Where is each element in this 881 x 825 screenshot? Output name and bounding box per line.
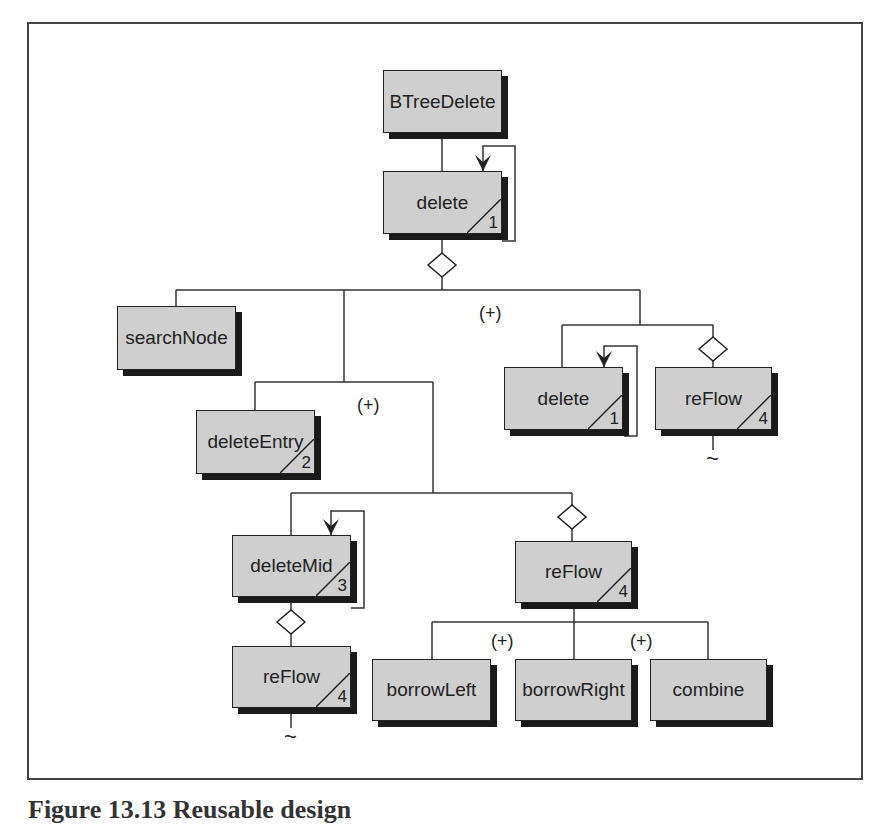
module-box-reflow-mid: reFlow4 [515, 541, 632, 603]
module-label: borrowLeft [387, 679, 477, 701]
module-box-body: deleteEntry2 [196, 410, 315, 474]
module-box-delete-right: delete1 [504, 367, 623, 430]
module-box-deleteentry: deleteEntry2 [196, 410, 315, 474]
module-label: searchNode [125, 327, 227, 349]
continuation-tilde: ~ [706, 446, 719, 472]
module-box-body: reFlow4 [515, 541, 632, 603]
module-box-body: reFlow4 [232, 646, 351, 708]
reference-number: 1 [489, 213, 498, 233]
continuation-tilde: ~ [284, 724, 297, 750]
module-box-reflow-right: reFlow4 [655, 367, 772, 430]
module-box-body: borrowRight [515, 659, 632, 721]
module-box-delete-top: delete1 [383, 171, 502, 234]
module-label: reFlow [263, 666, 320, 688]
reference-corner: 1 [588, 395, 622, 429]
module-label: reFlow [545, 561, 602, 583]
reference-number: 1 [610, 409, 619, 429]
module-label: combine [673, 679, 745, 701]
module-box-body: searchNode [117, 306, 236, 370]
reference-corner: 4 [316, 673, 350, 707]
module-box-searchnode: searchNode [117, 306, 236, 370]
module-label: delete [538, 388, 590, 410]
selection-diamond-icon [699, 337, 727, 361]
module-box-body: reFlow4 [655, 367, 772, 430]
module-box-body: borrowLeft [372, 659, 491, 721]
reference-number: 4 [338, 687, 347, 707]
module-label: reFlow [685, 388, 742, 410]
reference-corner: 3 [316, 562, 350, 596]
module-box-deletemid: deleteMid3 [232, 535, 351, 597]
parallel-marker: (+) [479, 303, 502, 324]
module-label: BTreeDelete [390, 91, 496, 113]
module-box-borrowright: borrowRight [515, 659, 632, 721]
reference-corner: 4 [737, 395, 771, 429]
module-box-reflow-left: reFlow4 [232, 646, 351, 708]
figure-caption: Figure 13.13 Reusable design [28, 795, 351, 825]
module-box-body: deleteMid3 [232, 535, 351, 597]
reference-corner: 4 [597, 568, 631, 602]
module-box-body: delete1 [504, 367, 623, 430]
reference-number: 4 [759, 409, 768, 429]
reference-corner: 2 [280, 439, 314, 473]
selection-diamond-icon [558, 505, 586, 529]
parallel-marker: (+) [357, 395, 380, 416]
module-box-btreedelete: BTreeDelete [383, 70, 502, 133]
reference-number: 3 [338, 576, 347, 596]
module-box-combine: combine [650, 659, 767, 721]
selection-diamond-icon [428, 253, 456, 277]
reference-number: 2 [302, 453, 311, 473]
module-box-body: delete1 [383, 171, 502, 234]
selection-diamond-icon [277, 610, 305, 634]
reference-corner: 1 [467, 199, 501, 233]
reference-number: 4 [619, 582, 628, 602]
module-box-body: combine [650, 659, 767, 721]
module-label: delete [417, 192, 469, 214]
module-box-body: BTreeDelete [383, 70, 502, 133]
module-box-borrowleft: borrowLeft [372, 659, 491, 721]
module-label: borrowRight [522, 679, 624, 701]
parallel-marker: (+) [491, 631, 514, 652]
parallel-marker: (+) [630, 631, 653, 652]
